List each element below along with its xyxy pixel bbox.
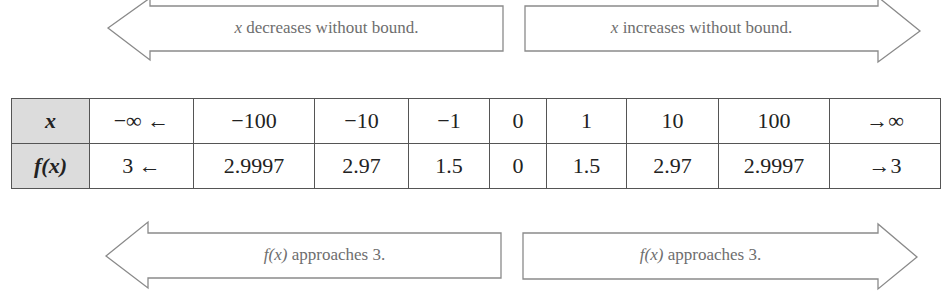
table-cell: 1.5 <box>409 144 490 189</box>
variable-x: x <box>234 18 242 37</box>
arrow-label-fx-approaches-left: f(x) approaches 3. <box>148 245 501 265</box>
table-cell: 0 <box>490 144 547 189</box>
table-cell: −∞ ← <box>90 99 194 144</box>
table-cell: 1 <box>547 99 627 144</box>
label-text: increases without bound. <box>618 18 792 37</box>
variable-fx: f(x) <box>640 245 664 264</box>
table-row-fx: f(x) 3 ← 2.9997 2.97 1.5 0 1.5 2.97 2.99… <box>12 144 941 189</box>
label-text: approaches 3. <box>663 245 761 264</box>
label-text: decreases without bound. <box>242 18 419 37</box>
arrow-label-x-decreases: x decreases without bound. <box>150 18 503 38</box>
table-cell: 10 <box>627 99 719 144</box>
table-cell: 1.5 <box>547 144 627 189</box>
values-table: x −∞ ← −100 −10 −1 0 1 10 100 →∞ f(x) 3 … <box>11 98 941 189</box>
table-cell: →3 <box>830 144 941 189</box>
table-cell: 2.97 <box>627 144 719 189</box>
variable-fx: f(x) <box>264 245 288 264</box>
arrow-label-fx-approaches-right: f(x) approaches 3. <box>523 245 878 265</box>
table-cell: 2.9997 <box>719 144 830 189</box>
table-cell: 3 ← <box>90 144 194 189</box>
table-cell: 0 <box>490 99 547 144</box>
table-cell: −1 <box>409 99 490 144</box>
table-cell: 2.9997 <box>194 144 315 189</box>
table-cell: −10 <box>315 99 409 144</box>
table-cell: 2.97 <box>315 144 409 189</box>
table-cell: 100 <box>719 99 830 144</box>
label-text: approaches 3. <box>287 245 385 264</box>
table-row-x: x −∞ ← −100 −10 −1 0 1 10 100 →∞ <box>12 99 941 144</box>
table-cell: →∞ <box>830 99 941 144</box>
table-cell: −100 <box>194 99 315 144</box>
row-header-x: x <box>12 99 90 144</box>
row-header-fx: f(x) <box>12 144 90 189</box>
arrow-label-x-increases: x increases without bound. <box>525 18 878 38</box>
